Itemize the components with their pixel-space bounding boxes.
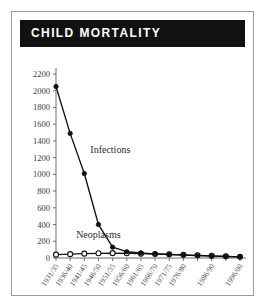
- x-axis: 1931/351936/401941/451946/501951/551956/…: [39, 258, 246, 288]
- series-label-infections: Infections: [90, 144, 130, 155]
- series-label-neoplasms: Neoplasms: [76, 229, 121, 240]
- page-title: CHILD MORTALITY: [31, 26, 161, 40]
- y-tick-label: 1600: [33, 119, 50, 129]
- y-tick-label: 0: [46, 253, 50, 263]
- y-tick-label: 400: [37, 220, 50, 230]
- data-point-neoplasms: [96, 251, 101, 256]
- x-tick-label: 1986/90: [195, 262, 216, 288]
- data-point-infections: [96, 222, 100, 226]
- data-point-infections: [82, 171, 86, 175]
- data-point-infections: [153, 252, 157, 256]
- chart-panel: CHILD MORTALITY 020040060080010001200140…: [11, 11, 254, 296]
- data-point-infections: [125, 250, 129, 254]
- child-mortality-line-chart: 0200400600800100012001400160018002000220…: [12, 46, 253, 295]
- y-tick-label: 1800: [33, 102, 50, 112]
- y-axis: 0200400600800100012001400160018002000220…: [33, 68, 56, 263]
- y-tick-label: 2200: [33, 69, 50, 79]
- data-point-infections: [238, 255, 242, 259]
- y-tick-label: 200: [37, 236, 50, 246]
- y-tick-label: 600: [37, 203, 50, 213]
- data-point-neoplasms: [68, 252, 73, 257]
- data-point-neoplasms: [110, 251, 115, 256]
- data-point-infections: [195, 253, 199, 257]
- y-tick-label: 1000: [33, 169, 50, 179]
- data-point-infections: [181, 253, 185, 257]
- data-point-neoplasms: [82, 251, 87, 256]
- series-annotations: InfectionsNeoplasms: [76, 144, 130, 239]
- data-point-infections: [167, 252, 171, 256]
- title-banner: CHILD MORTALITY: [20, 20, 245, 47]
- data-point-infections: [224, 254, 228, 258]
- data-point-infections: [110, 245, 114, 249]
- y-tick-label: 2000: [33, 86, 50, 96]
- data-point-infections: [54, 84, 58, 88]
- y-tick-label: 800: [37, 186, 50, 196]
- y-tick-label: 1400: [33, 136, 50, 146]
- data-point-neoplasms: [54, 252, 59, 257]
- data-point-infections: [68, 131, 72, 135]
- data-point-infections: [139, 251, 143, 255]
- data-point-infections: [209, 254, 213, 258]
- x-tick-label: 1996/00: [223, 262, 244, 288]
- y-tick-label: 1200: [33, 153, 50, 163]
